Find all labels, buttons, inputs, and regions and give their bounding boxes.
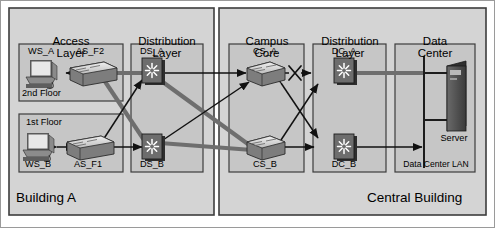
node-label-server: Server: [432, 134, 476, 143]
dc-b-icon: [334, 134, 357, 161]
node-label-ws-a: WS_A: [22, 47, 60, 56]
ws-b-icon: [23, 133, 54, 161]
node-label-dc-b: DC_B: [324, 160, 364, 169]
floor-label-2nd: 2nd Floor: [22, 89, 72, 98]
building-a-label: Building A: [16, 191, 76, 205]
node-label-as-f2: AS_F2: [68, 47, 112, 56]
network-diagram: AccessLayer DistributionLayer CampusCore…: [0, 0, 495, 228]
central-building-label: Central Building: [367, 191, 462, 205]
ds-b-icon: [142, 134, 165, 161]
node-label-ds-b: DS_B: [132, 160, 172, 169]
floor-label-1st: 1st Floor: [26, 118, 76, 127]
node-label-ds-a: DS_A: [132, 47, 172, 56]
node-label-as-f1: AS_F1: [66, 160, 110, 169]
node-label-dc-a: DC_A: [324, 47, 364, 56]
node-label-cs-a: CS_A: [245, 47, 285, 56]
node-label-ws-b: WS_B: [19, 160, 57, 169]
data-center-lan-label: Data Center LAN: [396, 160, 476, 169]
node-label-cs-b: CS_B: [245, 160, 285, 169]
group-title-data-center: DataCenter: [396, 13, 474, 83]
